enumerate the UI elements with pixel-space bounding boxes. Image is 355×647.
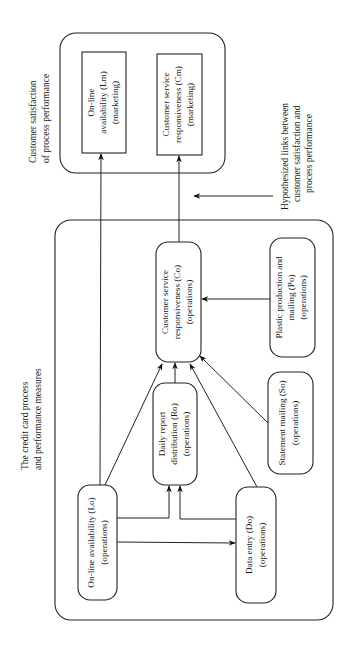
- svg-text:On-line availability (Lo): On-line availability (Lo): [86, 497, 96, 587]
- svg-text:and performance measures: and performance measures: [33, 368, 43, 470]
- node-co[interactable]: Customer service responsiveness (Co) (op…: [156, 242, 201, 362]
- svg-text:responsiveness (Cm): responsiveness (Cm): [173, 66, 183, 143]
- edge-lo-lm: [100, 154, 101, 485]
- node-cm[interactable]: Customer service responsiveness (Cm) (ma…: [157, 54, 202, 155]
- edge-so-co: [200, 356, 268, 423]
- node-po[interactable]: Plastic production and mailing (Po) (ope…: [270, 238, 315, 357]
- svg-text:of process performance: of process performance: [41, 74, 51, 163]
- operations-group-label: The credit card process and performance …: [20, 368, 43, 470]
- svg-text:(operations): (operations): [181, 412, 191, 456]
- svg-text:availability (Lm): availability (Lm): [98, 71, 108, 134]
- node-lo[interactable]: On-line availability (Lo) (operations): [78, 485, 117, 600]
- svg-text:Plastic production and: Plastic production and: [274, 256, 284, 339]
- marketing-group-label: Customer satisfaction of process perform…: [28, 74, 51, 163]
- node-lm[interactable]: On-line availability (Lm) (marketing): [82, 52, 126, 153]
- svg-text:(operations): (operations): [257, 523, 267, 567]
- svg-text:(operations): (operations): [298, 275, 308, 319]
- svg-text:responsiveness (Co): responsiveness (Co): [172, 265, 182, 339]
- svg-text:mailing (Po): mailing (Po): [286, 274, 296, 320]
- svg-text:Data entry (Do): Data entry (Do): [244, 516, 254, 574]
- svg-text:(operations): (operations): [99, 520, 109, 564]
- svg-text:customer satisfaction and: customer satisfaction and: [292, 105, 302, 202]
- svg-text:Customer service: Customer service: [160, 270, 170, 334]
- svg-text:Customer service: Customer service: [161, 72, 171, 136]
- svg-text:(operations): (operations): [290, 401, 300, 445]
- svg-text:distribution (Ro): distribution (Ro): [169, 403, 179, 465]
- svg-text:Statement mailing (So): Statement mailing (So): [277, 380, 287, 465]
- edge-lo-do: [117, 542, 235, 543]
- svg-text:(operations): (operations): [184, 280, 194, 324]
- node-ro[interactable]: Daily report distribution (Ro) (operatio…: [153, 383, 197, 485]
- svg-text:Customer satisfaction: Customer satisfaction: [28, 80, 38, 163]
- credit-card-process-diagram: Customer satisfaction of process perform…: [0, 0, 355, 647]
- svg-text:Daily report: Daily report: [157, 411, 167, 456]
- edge-do-ro: [180, 486, 236, 519]
- svg-text:Hypothesized links between: Hypothesized links between: [280, 103, 290, 210]
- edge-do-co: [190, 364, 257, 487]
- svg-text:(marketing): (marketing): [185, 83, 195, 126]
- svg-text:process performance: process performance: [304, 114, 314, 193]
- node-so[interactable]: Statement mailing (So) (operations): [268, 372, 313, 474]
- hypothesized-links-annotation: Hypothesized links between customer sati…: [280, 103, 314, 210]
- node-do[interactable]: Data entry (Do) (operations): [236, 487, 276, 603]
- edge-lo-ro: [117, 486, 169, 518]
- svg-text:(marketing): (marketing): [110, 81, 120, 124]
- svg-text:On-line: On-line: [86, 88, 96, 116]
- svg-text:The credit card process: The credit card process: [20, 381, 30, 470]
